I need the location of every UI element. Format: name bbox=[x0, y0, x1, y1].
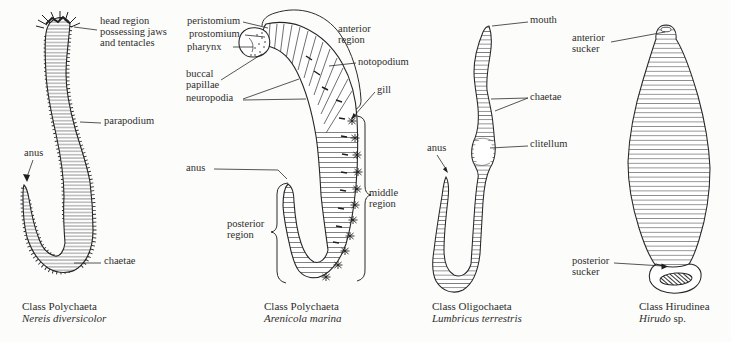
anterior-sucker-opening bbox=[661, 27, 671, 32]
figure-drawing bbox=[0, 0, 731, 342]
label-mouth: mouth bbox=[530, 15, 557, 26]
caption-species: Arenicola marina bbox=[264, 312, 342, 324]
label-anus: anus bbox=[186, 163, 205, 174]
hirudo-drawing bbox=[611, 22, 714, 293]
label-line: sucker bbox=[572, 267, 609, 278]
label-notopodium: notopodium bbox=[358, 57, 409, 68]
label-middle-region: middle region bbox=[369, 188, 398, 210]
caption-species-suffix: sp. bbox=[671, 312, 686, 324]
anus-arrowhead bbox=[23, 174, 30, 182]
caption-species-line: Lumbricus terrestris bbox=[432, 313, 522, 325]
label-anus: anus bbox=[427, 143, 446, 154]
label-line: papillae bbox=[186, 80, 219, 91]
caption-species: Hirudo bbox=[639, 312, 671, 324]
label-chaetae: chaetae bbox=[104, 256, 135, 267]
caption-species: Lumbricus terrestris bbox=[432, 312, 522, 324]
label-head-region: head region possessing jaws and tentacle… bbox=[100, 16, 167, 48]
label-peristomium: peristomium bbox=[187, 16, 240, 27]
lumbricus-drawing bbox=[425, 20, 528, 298]
label-line: region bbox=[338, 35, 371, 46]
annelid-diagram: head region possessing jaws and tentacle… bbox=[0, 0, 731, 342]
caption-nereis: Class Polychaeta Nereis diversicolor bbox=[22, 301, 106, 324]
caption-lumbricus: Class Oligochaeta Lumbricus terrestris bbox=[432, 301, 522, 324]
label-line: region bbox=[227, 230, 264, 241]
label-line: possessing jaws bbox=[100, 27, 167, 38]
label-neuropodia: neuropodia bbox=[186, 93, 233, 104]
label-posterior-region: posterior region bbox=[227, 219, 264, 241]
label-line: sucker bbox=[572, 44, 605, 55]
label-posterior-sucker: posterior sucker bbox=[572, 256, 609, 278]
arenicola-drawing bbox=[214, 10, 375, 283]
caption-species-line: Arenicola marina bbox=[264, 313, 342, 325]
caption-species-line: Hirudo sp. bbox=[639, 313, 710, 325]
label-prostomium: prostomium bbox=[189, 29, 240, 40]
label-anus: anus bbox=[24, 148, 43, 159]
label-parapodium: parapodium bbox=[104, 116, 154, 127]
label-anterior-sucker: anterior sucker bbox=[572, 33, 605, 55]
anus-arrowhead bbox=[443, 167, 448, 173]
label-chaetae: chaetae bbox=[530, 92, 561, 103]
label-clitellum: clitellum bbox=[530, 139, 567, 150]
caption-species-line: Nereis diversicolor bbox=[22, 313, 106, 325]
label-line: and tentacles bbox=[100, 38, 167, 49]
caption-arenicola: Class Polychaeta Arenicola marina bbox=[264, 301, 342, 324]
label-anterior-region: anterior region bbox=[338, 24, 371, 46]
caption-species: Nereis diversicolor bbox=[22, 312, 106, 324]
label-pharynx: pharynx bbox=[187, 42, 221, 53]
label-line: region bbox=[369, 199, 398, 210]
caption-hirudo: Class Hirudinea Hirudo sp. bbox=[639, 301, 710, 324]
clitellum-smooth-area bbox=[474, 139, 494, 165]
label-buccal-papillae: buccal papillae bbox=[186, 69, 219, 91]
label-gill: gill bbox=[377, 85, 391, 96]
